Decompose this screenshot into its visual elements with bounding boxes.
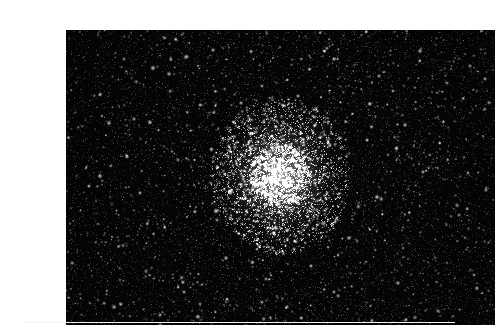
footer-divider [26,322,455,323]
globular-cluster-photograph: Deep-sky astrophotograph of a globular s… [66,30,495,325]
star-field-canvas [66,30,495,325]
figure-caption [0,0,1,1]
